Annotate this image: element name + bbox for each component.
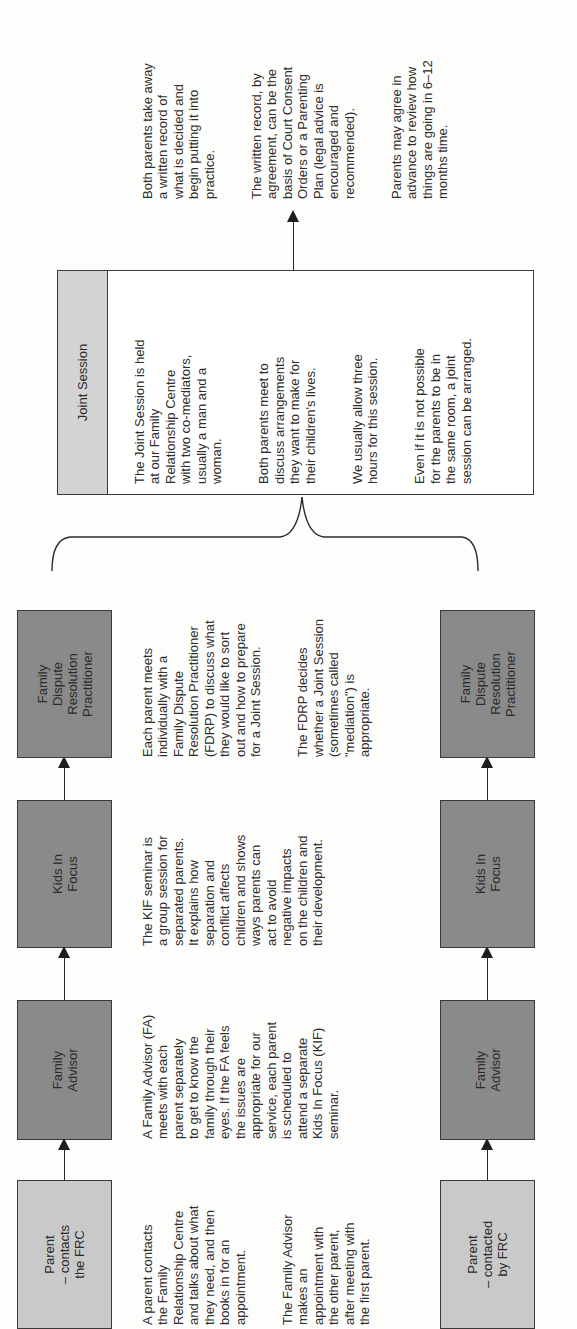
kids-in-focus-box-2: Kids In Focus bbox=[440, 800, 535, 948]
parent-contacts-frc-box: Parent – contacts the FRC bbox=[17, 1180, 112, 1329]
arrow-right-icon bbox=[293, 212, 294, 270]
joint-session-box: Joint Session The Joint Session is held … bbox=[57, 270, 534, 495]
kids-in-focus-box: Kids In Focus bbox=[17, 800, 112, 948]
parent-description-p1: A parent contacts the Family Relationshi… bbox=[140, 1175, 249, 1325]
arrow-right-icon bbox=[487, 1140, 488, 1180]
parent-description-p2: The Family Advisor makes an appointment … bbox=[280, 1175, 373, 1325]
outcome-description: Both parents take away a written record … bbox=[124, 9, 482, 199]
joint-session-p4: Even if it is not possible for the paren… bbox=[412, 279, 474, 484]
arrow-right-icon bbox=[64, 1140, 65, 1180]
brace-connector-icon bbox=[0, 489, 577, 609]
fdrp-description-p2: The FDRP decides whether a Joint Session… bbox=[295, 587, 373, 757]
joint-session-p1: The Joint Session is held at our Family … bbox=[132, 279, 225, 484]
family-advisor-description-p1: A Family Advisor (FA) meets with each pa… bbox=[140, 979, 342, 1139]
joint-session-title: Joint Session bbox=[58, 271, 108, 494]
outcome-p3: Parents may agree in advance to review h… bbox=[389, 9, 451, 199]
outcome-p1: Both parents take away a written record … bbox=[140, 9, 218, 199]
parent-description: A parent contacts the Family Relationshi… bbox=[124, 1175, 404, 1325]
kids-in-focus-description: The KIF seminar is a group session for s… bbox=[124, 796, 357, 946]
arrow-right-icon bbox=[487, 758, 488, 800]
arrow-right-icon bbox=[64, 758, 65, 800]
joint-session-body: The Joint Session is held at our Family … bbox=[116, 279, 506, 484]
fdrp-description-p1: Each parent meets individually with a Fa… bbox=[140, 587, 264, 757]
joint-session-p2: Both parents meet to discuss arrangement… bbox=[256, 279, 318, 484]
parent-contacted-by-frc-box: Parent – contacted by FRC bbox=[440, 1180, 535, 1329]
family-advisor-box: Family Advisor bbox=[17, 1000, 112, 1140]
outcome-p2: The written record, by agreement, can be… bbox=[249, 9, 358, 199]
fdrp-description: Each parent meets individually with a Fa… bbox=[124, 587, 404, 757]
arrow-right-icon bbox=[64, 948, 65, 1000]
fdrp-box-2: Family Dispute Resolution Practitioner bbox=[440, 610, 535, 758]
kids-in-focus-description-p1: The KIF seminar is a group session for s… bbox=[140, 796, 326, 946]
family-advisor-description: A Family Advisor (FA) meets with each pa… bbox=[124, 979, 373, 1139]
arrow-right-icon bbox=[487, 948, 488, 1000]
family-advisor-box-2: Family Advisor bbox=[440, 1000, 535, 1140]
flowchart-page: Parent – contacts the FRC Family Advisor… bbox=[0, 0, 577, 1329]
joint-session-p3: We usually allow three hours for this se… bbox=[350, 279, 381, 484]
fdrp-box: Family Dispute Resolution Practitioner bbox=[17, 610, 112, 758]
